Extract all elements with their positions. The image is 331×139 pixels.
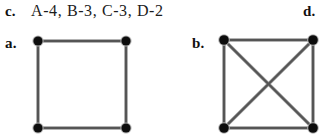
vertex-bottom-left — [33, 123, 42, 132]
answer-option-row: c. A-4, B-3, C-3, D-2 d. — [0, 0, 331, 24]
vertex-bottom-right — [121, 123, 130, 132]
option-c-answer-text: A-4, B-3, C-3, D-2 — [31, 2, 164, 19]
graph-diagram-b — [215, 30, 323, 138]
vertex-top-left — [219, 35, 229, 45]
vertex-bottom-right — [308, 123, 318, 133]
option-label-a: a. — [5, 35, 17, 51]
vertex-top-left — [33, 36, 42, 45]
vertex-top-right — [308, 35, 318, 45]
figure-page: c. A-4, B-3, C-3, D-2 d. a. b. — [0, 0, 331, 139]
option-label-c: c. — [5, 3, 16, 19]
option-label-b: b. — [192, 35, 205, 51]
vertex-bottom-left — [219, 123, 229, 133]
option-label-d: d. — [303, 3, 316, 19]
vertex-top-right — [121, 36, 130, 45]
graph-diagram-a — [28, 30, 136, 138]
edge-shadow-group — [38, 41, 126, 128]
